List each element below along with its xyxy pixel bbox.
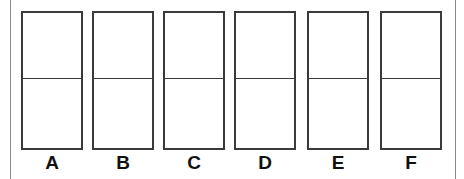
figure-cell-bottom (21, 78, 83, 150)
figure-cell-bottom (234, 78, 296, 150)
figure-cell-top (163, 11, 225, 79)
figure-label-e: E (307, 152, 369, 174)
figure-item-a (21, 11, 83, 150)
figure-cell-bottom (163, 78, 225, 150)
figure-cell-top (307, 11, 369, 79)
figure-cell-bottom (307, 78, 369, 150)
figure-cell-top (21, 11, 83, 79)
figure-cell-top (234, 11, 296, 79)
figure-item-c (163, 11, 225, 150)
figure-cell-top (380, 11, 442, 79)
figure-label-d: D (234, 152, 296, 174)
figure-item-d (234, 11, 296, 150)
figure-cell-bottom (380, 78, 442, 150)
figure-cell-bottom (92, 78, 154, 150)
figure-label-f: F (380, 152, 442, 174)
figure-row: A B C D E F (0, 0, 464, 179)
figure-cell-top (92, 11, 154, 79)
figure-item-b (92, 11, 154, 150)
figure-label-a: A (21, 152, 83, 174)
figure-item-e (307, 11, 369, 150)
figure-item-f (380, 11, 442, 150)
figure-label-b: B (92, 152, 154, 174)
figure-canvas: A B C D E F (0, 0, 464, 179)
figure-label-c: C (163, 152, 225, 174)
